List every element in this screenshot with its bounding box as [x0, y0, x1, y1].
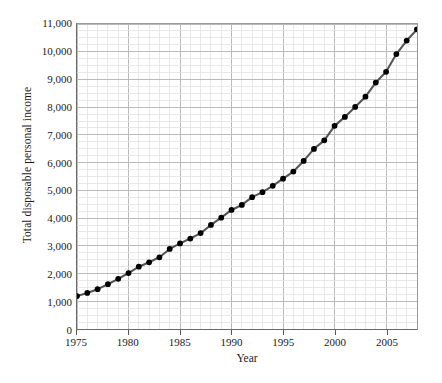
data-point-marker: 1985: 3086 [177, 241, 183, 247]
data-point-marker: 1987: 3459 [198, 230, 204, 236]
data-point-marker: 2000: 7327 [332, 123, 338, 129]
data-point-marker: 1988: 3752 [208, 222, 214, 228]
y-tick-label: 8,000 [24, 101, 72, 112]
y-tick-label: 7,000 [24, 129, 72, 140]
data-point-marker: 1986: 3262 [187, 236, 193, 242]
x-tick-label: 1975 [65, 336, 87, 348]
x-tick-mark [180, 330, 181, 335]
x-axis-title: Year [76, 352, 418, 364]
y-tick-label: 6,000 [24, 157, 72, 168]
data-point-marker: 1981: 2248 [136, 264, 142, 270]
x-tick-mark [335, 330, 336, 335]
data-point-marker: 1991: 4474 [239, 202, 245, 208]
y-axis-tick-labels: 01,0002,0003,0004,0005,0006,0007,0008,00… [24, 0, 72, 383]
x-tick-label: 2005 [376, 336, 398, 348]
y-tick-label: 10,000 [24, 45, 72, 56]
y-tick-label: 2,000 [24, 269, 72, 280]
data-point-marker: 1993: 4935 [260, 189, 266, 195]
y-tick-label: 3,000 [24, 241, 72, 252]
x-tick-mark [283, 330, 284, 335]
y-tick-label: 0 [24, 325, 72, 336]
data-point-marker: 1977: 1436 [95, 286, 101, 292]
data-point-marker: 1995: 5422 [280, 176, 286, 182]
data-point-marker: 1990: 4294 [229, 207, 235, 213]
data-point-marker: 1998: 6495 [311, 146, 317, 152]
data-point-marker: 2001: 7649 [342, 114, 348, 120]
data-point-marker: 1982: 2406 [146, 259, 152, 265]
data-point-marker: 1978: 1614 [105, 281, 111, 287]
data-point-marker: 1976: 1302 [84, 290, 90, 296]
data-point-marker: 2002: 8010 [352, 104, 358, 110]
data-point-marker: 1984: 2887 [167, 246, 173, 252]
data-point-marker: 1979: 1808 [115, 276, 121, 282]
plot-area: 1975: 11871976: 13021977: 14361978: 1614… [76, 23, 418, 330]
x-tick-mark [231, 330, 232, 335]
data-point-marker: 1997: 6061 [301, 158, 307, 164]
x-tick-mark [76, 330, 77, 335]
y-tick-label: 5,000 [24, 185, 72, 196]
data-point-marker: 1980: 2019 [126, 270, 132, 276]
data-point-marker: 2007: 10404 [404, 38, 410, 44]
x-tick-label: 1990 [220, 336, 242, 348]
data-point-marker: 1999: 6803 [321, 137, 327, 143]
x-tick-mark [128, 330, 129, 335]
x-tick-label: 1980 [117, 336, 139, 348]
data-point-marker: 1989: 4016 [218, 215, 224, 221]
y-tick-label: 11,000 [24, 18, 72, 29]
data-series-income: 1975: 11871976: 13021977: 14361978: 1614… [77, 24, 417, 329]
data-point-marker: 2006: 9916 [394, 51, 400, 57]
data-point-marker: 2003: 8378 [363, 94, 369, 100]
x-tick-label: 1985 [169, 336, 191, 348]
y-tick-label: 1,000 [24, 297, 72, 308]
x-tick-mark [387, 330, 388, 335]
data-point-marker: 2005: 9277 [383, 69, 389, 75]
x-tick-label: 1995 [272, 336, 294, 348]
data-point-marker: 1992: 4755 [249, 194, 255, 200]
data-point-marker: 1994: 5165 [270, 183, 276, 189]
data-point-marker: 1996: 5678 [290, 169, 296, 175]
x-tick-label: 2000 [324, 336, 346, 348]
y-tick-label: 4,000 [24, 213, 72, 224]
data-point-marker: 1975: 1187 [77, 293, 80, 299]
series-line [77, 29, 417, 296]
data-point-marker: 2004: 8889 [373, 80, 379, 86]
data-point-marker: 1983: 2586 [157, 254, 163, 260]
y-tick-label: 9,000 [24, 73, 72, 84]
chart-figure: Total disposable personal income 01,0002… [0, 0, 442, 383]
